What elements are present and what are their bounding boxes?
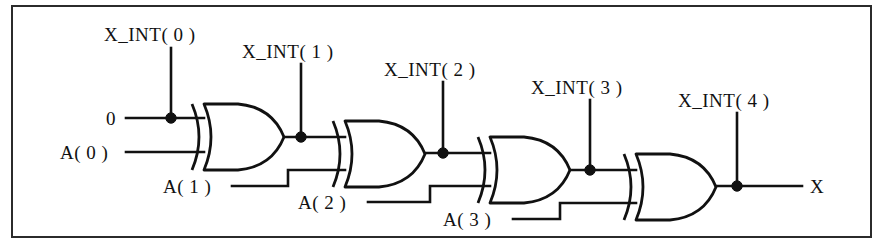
label-xint0: X_INT( 0 ) [104, 25, 196, 44]
label-input-a2: A( 2 ) [298, 193, 346, 212]
gate-xor-2-body [345, 121, 425, 187]
gate-xor-2[interactable] [333, 121, 425, 187]
label-input-a1: A( 1 ) [163, 177, 211, 196]
wire-a1-to-gate2 [232, 170, 345, 186]
junction-dot-xint2 [438, 148, 448, 158]
figure-page: X_INT( 0 ) X_INT( 1 ) X_INT( 2 ) X_INT( … [0, 0, 884, 249]
label-xint1: X_INT( 1 ) [242, 42, 334, 61]
label-xint2: X_INT( 2 ) [384, 60, 476, 79]
gate-xor-2-back-arc [333, 121, 340, 187]
gate-xor-1-back-arc [192, 104, 199, 170]
label-xint3: X_INT( 3 ) [531, 78, 623, 97]
label-input-a3: A( 3 ) [443, 210, 491, 229]
gate-xor-1-body [204, 104, 284, 170]
label-output-x: X [810, 177, 824, 196]
gate-xor-4[interactable] [624, 154, 716, 220]
label-input-a0: A( 0 ) [60, 143, 108, 162]
gate-xor-1[interactable] [192, 104, 284, 170]
wire-a3-to-gate4 [513, 203, 636, 219]
gate-xor-3-back-arc [478, 137, 485, 203]
gate-xor-3-body [490, 137, 570, 203]
gate-xor-3[interactable] [478, 137, 570, 203]
junction-dot-xint4 [732, 181, 742, 191]
label-input-const0: 0 [106, 109, 116, 128]
wire-a2-to-gate3 [368, 186, 490, 202]
junction-dot-xint0 [166, 113, 176, 123]
label-xint4: X_INT( 4 ) [678, 91, 770, 110]
gate-xor-4-back-arc [624, 154, 631, 220]
gate-xor-4-body [636, 154, 716, 220]
junction-dot-xint3 [585, 165, 595, 175]
junction-dot-xint1 [296, 132, 306, 142]
